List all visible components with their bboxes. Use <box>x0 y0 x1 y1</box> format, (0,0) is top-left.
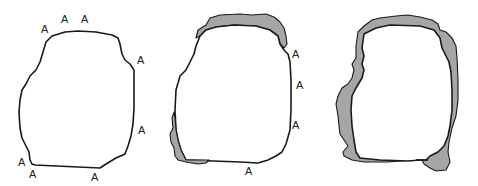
label-a: A <box>91 171 99 183</box>
label-a: A <box>41 23 49 35</box>
panel-1-outline <box>19 31 134 168</box>
label-a: A <box>138 124 146 136</box>
panel-3 <box>336 15 458 171</box>
label-a: A <box>292 119 300 131</box>
label-a: A <box>81 13 89 25</box>
diagram-svg: A A A A A A A A A A A A <box>0 0 478 186</box>
label-a: A <box>29 168 37 180</box>
panel-1: A A A A A A A A <box>18 13 146 183</box>
panel-2: A A A A <box>170 14 304 177</box>
label-a: A <box>296 79 304 91</box>
label-a: A <box>137 54 145 66</box>
label-a: A <box>292 48 300 60</box>
panel-2-outline <box>175 25 291 163</box>
panel-3-outline <box>351 25 452 161</box>
label-a: A <box>61 13 69 25</box>
label-a: A <box>245 165 253 177</box>
figure-canvas: A A A A A A A A A A A A <box>0 0 478 186</box>
label-a: A <box>18 156 26 168</box>
